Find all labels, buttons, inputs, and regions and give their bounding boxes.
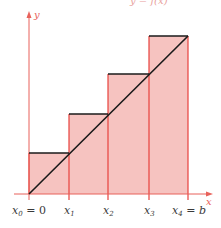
rectangle-3: [108, 74, 149, 194]
y-axis-label: y: [33, 9, 40, 20]
tick-label-x2: x2: [103, 204, 114, 218]
top-cutoff-text: y = f(x): [129, 0, 168, 6]
tick-label-x0: x0 = 0: [12, 204, 46, 218]
rectangle-2: [69, 114, 108, 194]
tick-label-x4: x4 = b: [172, 204, 206, 218]
y-axis-arrow-icon: [27, 11, 32, 18]
tick-label-x1: x1: [64, 204, 75, 218]
x-axis-label: x: [206, 196, 212, 207]
rectangle-4: [149, 36, 188, 194]
riemann-diagram: y = f(x) y x x0 = 0 x1 x2 x3 x4 = b: [0, 0, 221, 228]
tick-label-x3: x3: [144, 204, 155, 218]
